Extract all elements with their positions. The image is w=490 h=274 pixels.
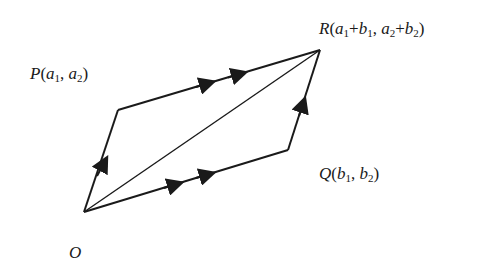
plus: + — [349, 19, 359, 38]
label-q-letter: Q — [319, 164, 331, 183]
label-o-letter: O — [69, 243, 81, 262]
separator: , — [60, 64, 69, 83]
edge-op — [84, 110, 118, 212]
parallelogram-figure — [0, 0, 490, 274]
arrow-icon — [196, 83, 208, 87]
label-o: O — [69, 243, 81, 263]
arrow-icon — [299, 104, 303, 116]
var-a: a — [335, 19, 344, 38]
var-a: a — [69, 64, 78, 83]
label-r: R(a1+b1, a2+b2) — [319, 19, 424, 39]
edge-oq — [84, 150, 288, 212]
arrow-icon — [196, 175, 208, 179]
var-b: b — [405, 19, 414, 38]
plus: + — [395, 19, 405, 38]
paren: ) — [419, 19, 425, 38]
edge-qr — [288, 50, 320, 150]
vector-diagram: P(a1, a2) R(a1+b1, a2+b2) Q(b1, b2) O — [0, 0, 490, 274]
var-a: a — [381, 19, 390, 38]
paren: ) — [373, 164, 379, 183]
label-p-letter: P — [30, 64, 40, 83]
label-q: Q(b1, b2) — [319, 164, 379, 184]
var-a: a — [46, 64, 55, 83]
diagonal-or — [84, 50, 320, 212]
label-p: P(a1, a2) — [30, 64, 88, 84]
paren: ) — [83, 64, 89, 83]
label-r-letter: R — [319, 19, 329, 38]
var-b: b — [359, 19, 368, 38]
var-b: b — [359, 164, 368, 183]
separator: , — [373, 19, 382, 38]
edge-pr — [118, 50, 320, 110]
